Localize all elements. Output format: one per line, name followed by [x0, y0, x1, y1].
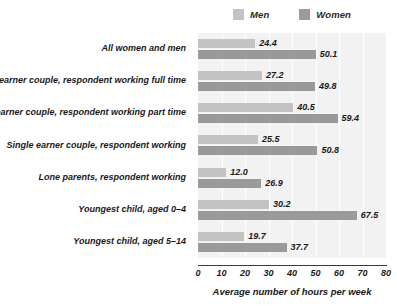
- bar-group: 30.267.5: [198, 194, 386, 226]
- legend-swatch-men: [233, 9, 244, 20]
- bar-value-label: 37.7: [291, 241, 309, 253]
- bar-group: 24.450.1: [198, 33, 386, 65]
- bar-row: 50.1: [198, 50, 386, 59]
- bar-women: [198, 114, 338, 123]
- x-tick-label: 40: [287, 268, 297, 278]
- category-label: Youngest child, aged 0–4: [78, 204, 186, 215]
- plot-area: 24.450.127.249.840.559.425.550.812.026.9…: [198, 33, 386, 258]
- x-tick-label: 0: [195, 268, 200, 278]
- bar-men: [198, 200, 269, 209]
- bar-value-label: 30.2: [273, 198, 291, 210]
- bar-groups: 24.450.127.249.840.559.425.550.812.026.9…: [198, 33, 386, 258]
- bar-row: 40.5: [198, 103, 386, 112]
- bar-row: 37.7: [198, 243, 386, 252]
- bar-value-label: 12.0: [230, 166, 248, 178]
- bar-row: 67.5: [198, 211, 386, 220]
- legend-label-men: Men: [250, 9, 269, 20]
- bar-women: [198, 243, 287, 252]
- legend-item-men: Men: [233, 9, 269, 20]
- category-label: Youngest child, aged 5–14: [73, 236, 186, 247]
- bar-row: 26.9: [198, 179, 386, 188]
- x-tick-label: 30: [263, 268, 273, 278]
- category-label: Single earner couple, respondent working: [6, 140, 186, 151]
- bar-group: 27.249.8: [198, 65, 386, 97]
- bar-group: 40.559.4: [198, 97, 386, 129]
- bar-men: [198, 71, 262, 80]
- bar-group: 25.550.8: [198, 129, 386, 161]
- bar-value-label: 26.9: [265, 177, 283, 189]
- bar-women: [198, 50, 316, 59]
- x-tick-label: 70: [357, 268, 367, 278]
- legend-label-women: Women: [316, 9, 351, 20]
- category-label: Lone parents, respondent working: [38, 172, 186, 183]
- x-tick-label: 60: [334, 268, 344, 278]
- bar-women: [198, 211, 357, 220]
- bar-women: [198, 179, 261, 188]
- bar-value-label: 50.8: [321, 144, 339, 156]
- bar-value-label: 67.5: [361, 209, 379, 221]
- bar-value-label: 19.7: [248, 230, 266, 242]
- category-axis-labels: All women and menDual earner couple, res…: [0, 33, 192, 258]
- bar-value-label: 49.8: [319, 80, 337, 92]
- chart-legend: Men Women: [198, 6, 386, 22]
- bar-value-label: 25.5: [262, 133, 280, 145]
- category-label: Dual earner couple, respondent working f…: [0, 75, 186, 86]
- bar-row: 49.8: [198, 82, 386, 91]
- bar-row: 25.5: [198, 135, 386, 144]
- bar-chart: Men Women All women and menDual earner c…: [0, 0, 397, 306]
- bar-men: [198, 39, 255, 48]
- bar-group: 12.026.9: [198, 162, 386, 194]
- bar-value-label: 27.2: [266, 69, 284, 81]
- bar-row: 59.4: [198, 114, 386, 123]
- bar-row: 24.4: [198, 39, 386, 48]
- bar-value-label: 59.4: [342, 112, 360, 124]
- bar-value-label: 50.1: [320, 48, 338, 60]
- x-tick-label: 10: [216, 268, 226, 278]
- bar-group: 19.737.7: [198, 226, 386, 258]
- bar-men: [198, 103, 293, 112]
- bar-value-label: 40.5: [297, 101, 315, 113]
- bar-row: 30.2: [198, 200, 386, 209]
- x-axis-title: Average number of hours per week: [198, 286, 386, 297]
- bar-men: [198, 135, 258, 144]
- category-label: All women and men: [101, 43, 186, 54]
- category-label: Dual earner couple, respondent working p…: [0, 107, 186, 118]
- bar-row: 27.2: [198, 71, 386, 80]
- bar-men: [198, 168, 226, 177]
- bar-row: 12.0: [198, 168, 386, 177]
- bar-row: 50.8: [198, 146, 386, 155]
- x-tick-label: 20: [240, 268, 250, 278]
- bar-women: [198, 82, 315, 91]
- bar-men: [198, 232, 244, 241]
- legend-item-women: Women: [299, 9, 351, 20]
- bar-women: [198, 146, 317, 155]
- x-axis-line: [198, 265, 387, 266]
- bar-value-label: 24.4: [259, 37, 277, 49]
- gridline: [386, 33, 387, 258]
- bar-row: 19.7: [198, 232, 386, 241]
- x-tick-label: 50: [310, 268, 320, 278]
- x-axis-tick-labels: 01020304050607080: [198, 268, 386, 282]
- x-tick-label: 80: [381, 268, 391, 278]
- legend-swatch-women: [299, 9, 310, 20]
